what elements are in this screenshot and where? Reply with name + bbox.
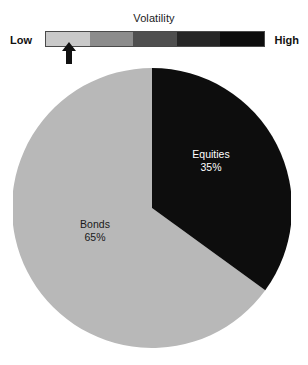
volatility-gradient-bar[interactable] bbox=[45, 31, 265, 47]
pie-label-equities-name: Equities bbox=[176, 148, 246, 161]
scale-low-label: Low bbox=[10, 33, 32, 47]
pie-label-equities: Equities 35% bbox=[176, 148, 246, 174]
pie-label-equities-value: 35% bbox=[176, 161, 246, 174]
scale-segment-2 bbox=[90, 32, 134, 46]
volatility-scale-title: Volatility bbox=[0, 12, 308, 25]
up-arrow-icon bbox=[61, 42, 77, 64]
pie-label-bonds-value: 65% bbox=[60, 231, 130, 244]
volatility-scale: Low High bbox=[0, 31, 308, 49]
pie-label-bonds: Bonds 65% bbox=[60, 218, 130, 244]
pie-svg bbox=[13, 68, 291, 348]
volatility-allocation-figure: Volatility Low High Equities 35% Bonds 6… bbox=[0, 0, 308, 365]
pie-label-bonds-name: Bonds bbox=[60, 218, 130, 231]
scale-segment-3 bbox=[133, 32, 177, 46]
scale-high-label: High bbox=[275, 33, 299, 47]
allocation-pie-chart bbox=[13, 68, 291, 348]
scale-segment-5 bbox=[220, 32, 264, 46]
scale-segment-4 bbox=[177, 32, 221, 46]
